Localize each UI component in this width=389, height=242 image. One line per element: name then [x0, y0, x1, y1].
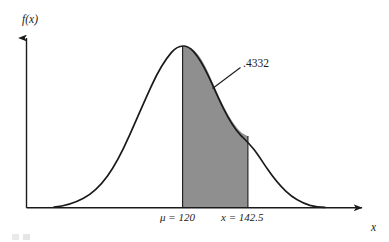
x-axis-label: x	[371, 222, 376, 234]
area-annotation-label: .4332	[243, 58, 269, 70]
upper-bound-tick-label: x = 142.5	[221, 212, 264, 223]
shaded-area-region	[183, 46, 248, 207]
figure-canvas	[0, 0, 389, 242]
mean-tick-label: μ = 120	[160, 212, 195, 223]
y-axis-label: f(x)	[22, 14, 38, 26]
normal-curve-figure: f(x) x μ = 120 x = 142.5 .4332	[0, 0, 389, 242]
annotation-leader-line	[213, 68, 241, 89]
page-artifact	[12, 234, 34, 240]
